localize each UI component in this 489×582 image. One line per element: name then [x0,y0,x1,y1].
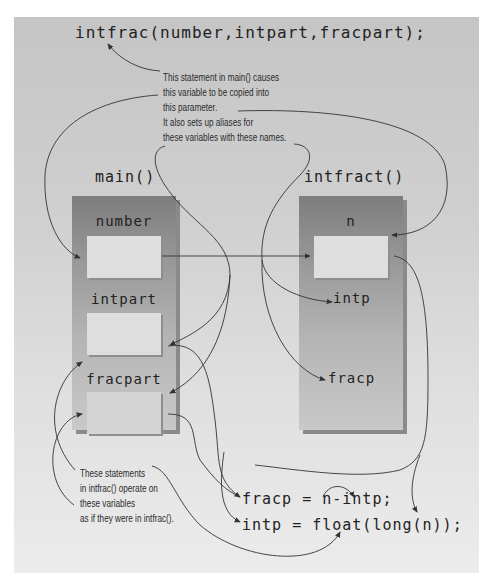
arrow-statement-to-call [108,44,160,71]
alias-arrow-to-intpart [155,146,230,345]
arrow-fracp-stmt [168,345,240,497]
arrow-note-to-intpart [55,362,82,470]
alias-arrow-to-fracpart [170,275,230,393]
arrow-n-to-long [412,455,420,512]
arrow-note-to-float [152,466,340,556]
alias-arrow-to-intp [262,260,332,302]
alias-arrow-to-fracp [262,260,325,380]
arrow-to-number [45,95,158,258]
alias-right-hook [262,144,310,260]
arrows-layer [0,0,489,582]
arc-n-intp [323,486,354,497]
arrow-intp-stmt [168,414,240,497]
arrow-n-loop [255,256,428,474]
